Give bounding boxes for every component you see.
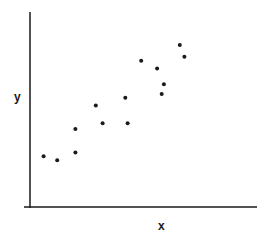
data-point [123,96,127,100]
data-point [73,150,77,154]
data-point [162,82,166,86]
data-points [42,43,187,162]
data-point [182,55,186,59]
data-point [101,121,105,125]
data-point [55,158,59,162]
data-point [178,43,182,47]
data-point [155,67,159,71]
scatter-chart: y x [0,0,269,238]
data-point [139,59,143,63]
data-point [73,127,77,131]
data-point [94,104,98,108]
data-point [126,121,130,125]
x-axis-label: x [158,219,165,233]
data-point [42,154,46,158]
data-point [160,92,164,96]
y-axis-label: y [14,90,21,104]
